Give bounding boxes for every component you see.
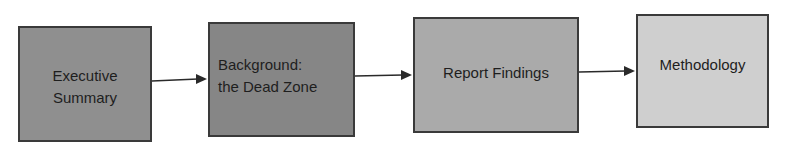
arrow-background-to-findings — [355, 70, 412, 80]
arrow-findings-to-methodology — [579, 66, 635, 76]
edges-layer — [0, 0, 791, 148]
arrow-executive-to-background — [152, 74, 207, 84]
